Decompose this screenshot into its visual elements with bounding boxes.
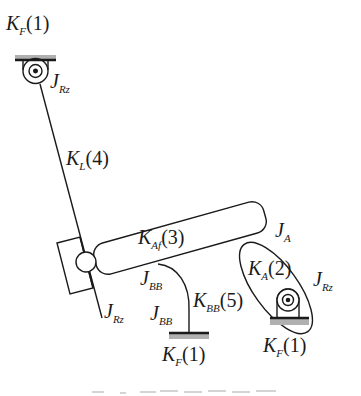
revolute-joint-icon: [76, 252, 96, 272]
label-bb-spring: KBB(5): [192, 289, 243, 314]
clipped-caption: [92, 391, 276, 393]
label-right-joint: JRz: [313, 268, 334, 293]
middle-ground-support: [169, 333, 209, 339]
label-top-ground: KF(1): [5, 12, 49, 37]
label-bottom-ground-mid: KF(1): [161, 343, 205, 368]
top-ground-support: [15, 55, 56, 70]
label-lower-left-joint: JRz: [104, 300, 125, 325]
label-bb-joint-lower: JBB: [150, 302, 173, 327]
label-ellipse-spring: KA(2): [247, 257, 291, 282]
label-bar: KAf(3): [137, 226, 184, 251]
label-bar-joint: JA: [275, 219, 291, 244]
label-bottom-ground-right: KF(1): [262, 334, 306, 359]
ellipse-spring: [226, 231, 325, 344]
label-link: KL(4): [65, 147, 109, 172]
mechanism-diagram: KF(1) JRz KL(4) KAf(3) JA KA(2) JRz JBB …: [0, 0, 361, 396]
top-pulley-icon: [23, 59, 48, 84]
label-bb-joint-upper: JBB: [140, 267, 163, 292]
label-top-joint: JRz: [50, 70, 71, 95]
right-pulley-icon: [277, 289, 299, 311]
